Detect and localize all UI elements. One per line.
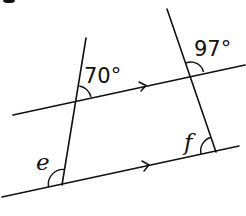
angle-arc-f	[201, 138, 211, 155]
angle-label-70: 70°	[84, 64, 121, 88]
angle-label-f: f	[182, 129, 196, 155]
angle-label-e: e	[36, 149, 50, 175]
cropped-glyph-fragment	[3, 0, 15, 3]
parallel-lines-diagram: 70° 97° e f	[0, 0, 246, 216]
left-transversal	[62, 38, 86, 185]
upper-parallel-line	[13, 65, 245, 115]
angle-label-97: 97°	[194, 37, 231, 61]
